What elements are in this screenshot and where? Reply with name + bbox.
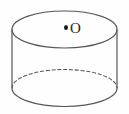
cylinder-figure: O (0, 0, 129, 114)
cylinder-drawing (0, 0, 129, 114)
center-point-label: O (70, 21, 81, 36)
bottom-front-arc (12, 88, 117, 107)
bottom-back-arc-dashed (12, 70, 117, 89)
center-point-dot (64, 25, 68, 30)
